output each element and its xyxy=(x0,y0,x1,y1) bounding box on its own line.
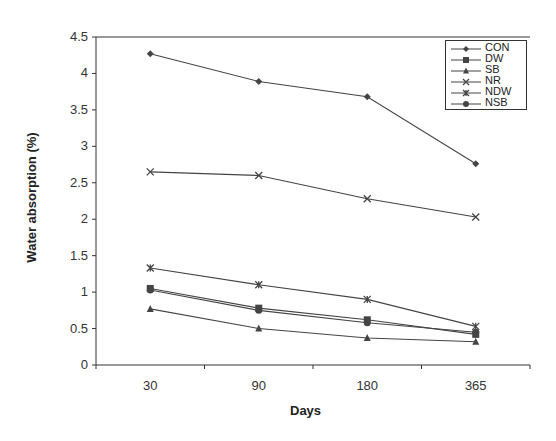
y-tick-label: 1 xyxy=(81,284,88,299)
series-sb xyxy=(147,305,480,345)
legend-item-nsb: NSB xyxy=(446,97,526,112)
y-axis-label: Water absorption (%) xyxy=(24,123,39,273)
series-con xyxy=(147,50,480,167)
y-tick-label: 3 xyxy=(81,138,88,153)
x-axis-label: Days xyxy=(290,403,321,418)
x-tick-label: 180 xyxy=(356,378,378,393)
x-tick-label: 365 xyxy=(465,378,487,393)
series-nsb xyxy=(147,286,480,335)
series-dw xyxy=(147,285,480,338)
y-tick-label: 1.5 xyxy=(70,248,88,263)
legend-label: NSB xyxy=(485,97,508,108)
x-tick-label: 90 xyxy=(252,378,266,393)
legend: CONDWSBNRNDWNSB xyxy=(445,40,527,110)
series-nr xyxy=(147,168,480,220)
x-tick-label: 30 xyxy=(143,378,157,393)
y-tick-label: 2 xyxy=(81,211,88,226)
y-tick-label: 3.5 xyxy=(70,102,88,117)
y-tick-label: 0 xyxy=(81,357,88,372)
y-tick-label: 4.5 xyxy=(70,29,88,44)
circle-marker-icon xyxy=(451,99,481,109)
y-tick-label: 0.5 xyxy=(70,321,88,336)
y-tick-label: 4 xyxy=(81,65,88,80)
y-tick-label: 2.5 xyxy=(70,175,88,190)
